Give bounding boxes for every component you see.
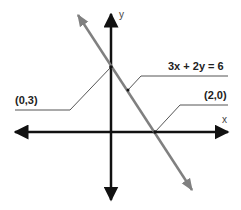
x-axis-label: x (222, 114, 227, 125)
equation-leader (128, 76, 228, 90)
x-intercept-leader (155, 105, 228, 132)
y-intercept-point (109, 65, 113, 69)
x-intercept-point (153, 130, 157, 134)
x-intercept-label: (2,0) (204, 89, 227, 101)
graphed-line (78, 15, 192, 190)
y-intercept-label: (0,3) (15, 94, 38, 106)
coordinate-plane-diagram: y x (0,3) 3x + 2y = 6 (2,0) (0, 0, 241, 210)
equation-label: 3x + 2y = 6 (168, 60, 224, 72)
equation-point (127, 89, 130, 92)
y-axis-label: y (119, 9, 124, 20)
